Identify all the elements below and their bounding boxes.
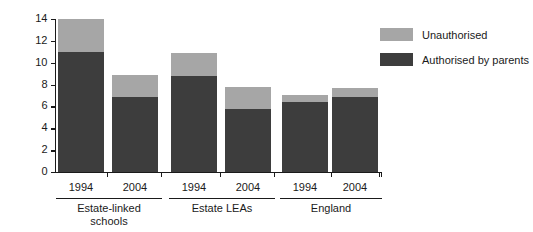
legend-label-unauthorised: Unauthorised: [422, 29, 487, 41]
y-tick-label-12: 12: [35, 34, 47, 46]
bar-segment-unauthorised: [282, 95, 328, 102]
group-label-3: England: [280, 202, 382, 215]
bar-5: [282, 95, 328, 172]
y-tick-14: 14: [51, 19, 56, 20]
bar-4: [225, 87, 271, 172]
group-rule-3: [280, 198, 382, 199]
x-label-4: 2004: [221, 181, 275, 193]
y-tick-0: 0: [51, 172, 56, 173]
x-label-1: 1994: [54, 181, 108, 193]
y-tick-label-4: 4: [41, 121, 47, 133]
x-label-5: 1994: [278, 181, 332, 193]
legend-label-authorised-by-parents: Authorised by parents: [422, 54, 529, 66]
y-tick-10: 10: [51, 63, 56, 64]
legend-item-authorised-by-parents: Authorised by parents: [380, 49, 530, 70]
legend: Unauthorised Authorised by parents: [380, 24, 530, 74]
y-tick-label-10: 10: [35, 56, 47, 68]
bar-segment-unauthorised: [171, 53, 217, 76]
group-label-2: Estate LEAs: [169, 202, 275, 215]
bar-segment-authorised-by-parents: [58, 52, 104, 172]
y-tick-12: 12: [51, 41, 56, 42]
y-tick-8: 8: [51, 85, 56, 86]
x-tick-5: [331, 172, 332, 177]
bar-1: [58, 19, 104, 172]
x-label-3: 1994: [167, 181, 221, 193]
group-label-1: Estate-linked schools: [56, 202, 162, 228]
bar-segment-authorised-by-parents: [171, 76, 217, 172]
plot-area: 02468101214: [55, 14, 381, 178]
bar-segment-unauthorised: [332, 88, 378, 97]
x-tick-2: [161, 172, 162, 177]
y-tick-2: 2: [51, 150, 56, 151]
y-tick-label-0: 0: [41, 165, 47, 177]
x-label-6: 2004: [328, 181, 382, 193]
y-tick-label-2: 2: [41, 143, 47, 155]
x-tick-1: [107, 172, 108, 177]
legend-swatch-unauthorised: [380, 28, 413, 41]
bar-segment-authorised-by-parents: [282, 102, 328, 172]
x-tick-6: [381, 172, 382, 177]
y-tick-label-14: 14: [35, 12, 47, 24]
bar-segment-unauthorised: [58, 19, 104, 52]
group-rule-2: [169, 198, 275, 199]
y-tick-label-8: 8: [41, 78, 47, 90]
bar-segment-authorised-by-parents: [112, 97, 158, 172]
stacked-bar-chart: Percentage of students 02468101214 19942…: [0, 0, 533, 232]
bar-3: [171, 53, 217, 172]
bar-segment-authorised-by-parents: [225, 109, 271, 172]
legend-swatch-authorised-by-parents: [380, 53, 413, 66]
group-rule-1: [56, 198, 162, 199]
y-tick-4: 4: [51, 128, 56, 129]
bar-segment-authorised-by-parents: [332, 97, 378, 172]
legend-item-unauthorised: Unauthorised: [380, 24, 530, 45]
y-tick-label-6: 6: [41, 99, 47, 111]
bar-2: [112, 75, 158, 172]
y-tick-6: 6: [51, 106, 56, 107]
bar-6: [332, 88, 378, 172]
bar-segment-unauthorised: [112, 75, 158, 97]
bar-segment-unauthorised: [225, 87, 271, 109]
x-tick-4: [274, 172, 275, 177]
x-tick-3: [220, 172, 221, 177]
x-label-2: 2004: [108, 181, 162, 193]
